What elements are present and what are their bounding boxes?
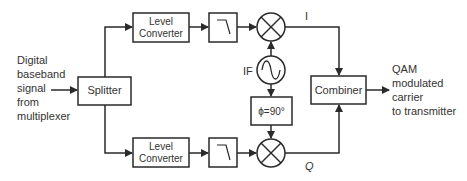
q-path-arrow bbox=[285, 105, 339, 153]
qam-modulator-diagram: Digital baseband signal from multiplexer… bbox=[0, 0, 467, 181]
splitter-label: Splitter bbox=[87, 84, 122, 96]
output-label-line-4: to transmitter bbox=[392, 105, 457, 117]
output-label-line-3: carrier bbox=[392, 91, 424, 103]
q-label: Q bbox=[305, 160, 314, 172]
output-label-line-2: modulated bbox=[392, 77, 443, 89]
if-label: IF bbox=[243, 65, 253, 77]
phase-shift-label: ϕ=90° bbox=[258, 106, 285, 117]
top-filter-box bbox=[209, 13, 237, 42]
top-level-converter-label-1: Level bbox=[149, 16, 173, 27]
input-label-line-4: from bbox=[17, 96, 39, 108]
bottom-level-converter-label-2: Converter bbox=[139, 153, 184, 164]
top-level-converter-label-2: Converter bbox=[139, 28, 184, 39]
input-label-line-3: signal bbox=[17, 82, 46, 94]
combiner-label: Combiner bbox=[315, 84, 363, 96]
bottom-level-converter-label-1: Level bbox=[149, 141, 173, 152]
splitter-to-bottom-arrow bbox=[105, 105, 132, 153]
input-label-line-2: baseband bbox=[17, 68, 65, 80]
splitter-to-top-arrow bbox=[105, 27, 132, 77]
output-label-line-1: QAM bbox=[392, 63, 417, 75]
i-label: I bbox=[305, 10, 308, 22]
i-path-arrow bbox=[285, 27, 339, 75]
input-label-line-1: Digital bbox=[17, 54, 48, 66]
input-label-line-5: multiplexer bbox=[17, 110, 71, 122]
bottom-filter-box bbox=[209, 138, 237, 167]
